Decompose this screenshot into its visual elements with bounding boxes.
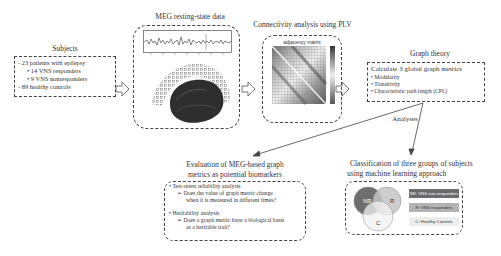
test-retest-bullet: • Test-retest reliability analysis — [169, 183, 241, 190]
test-retest-question-cont: when it is measured in different times? — [186, 197, 276, 204]
meg-time-series-icon — [143, 26, 233, 60]
heritability-question: ➢ Does a graph metric have a biological … — [177, 217, 284, 224]
graph-theory-box: Calculate 3 global graph metrics • Modul… — [367, 62, 485, 102]
venn-label-r: R — [390, 198, 395, 204]
subjects-line-responders: • 14 VNS responders — [27, 67, 81, 75]
test-retest-question: ➢ Does the value of graph metric change — [177, 190, 273, 197]
classification-title-line2: using machine learning approach — [347, 169, 487, 178]
legend-r: R: VNS responders — [409, 203, 459, 212]
connectivity-title: Connectivity analysis using PLV — [250, 20, 355, 29]
evaluation-title-line1: Evaluation of MEG-based graph — [170, 160, 300, 169]
adjacency-matrix-title: adjacency matrix — [272, 39, 332, 45]
adjacency-matrix-heatmap-icon — [272, 46, 338, 108]
evaluation-box: • Test-retest reliability analysis ➢ Doe… — [164, 181, 306, 241]
venn-label-nr: NR — [363, 198, 372, 204]
heritability-bullet: • Heritability analysis — [169, 210, 219, 217]
graph-theory-title: Graph theory — [395, 49, 465, 58]
subjects-line-nonresponders: • 9 VNS nonresponders — [27, 75, 87, 83]
sensor-helmet-brain-icon — [148, 60, 233, 124]
venn-diagram-icon: NR R C — [349, 183, 409, 235]
meg-title: MEG resting-state data — [140, 12, 240, 21]
subjects-line-patients: - 23 patients with epilepsy — [18, 59, 85, 67]
graph-metrics-heading: Calculate 3 global graph metrics — [371, 65, 462, 73]
subjects-line-controls: - 89 healthy controls — [18, 83, 71, 91]
metric-modularity: • Modularity — [371, 74, 400, 81]
evaluation-title-line2: metrics as potential biomarkers — [170, 170, 300, 179]
subjects-title: Subjects — [30, 44, 100, 53]
heritability-question-cont: as a heritable trait? — [186, 224, 230, 231]
analyses-label: Analyses — [385, 115, 425, 123]
metric-transitivity: • Transitivity — [371, 81, 400, 88]
venn-label-c: C — [376, 220, 381, 226]
classification-title-line1: Classification of three groups of subjec… — [350, 159, 490, 168]
metric-cpl: • Characteristic path length (CPL) — [371, 88, 447, 95]
legend-nr: NR: VNS non-responders — [409, 189, 459, 198]
legend-c: C: Healthy Controls — [409, 217, 459, 226]
subjects-box: - 23 patients with epilepsy • 14 VNS res… — [14, 56, 116, 97]
